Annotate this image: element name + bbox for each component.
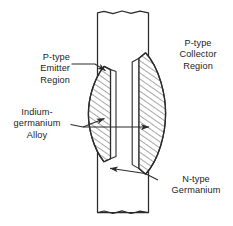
label-indium-germanium-alloy: Indium- germanium Alloy	[4, 107, 70, 141]
emitter-alloy-lens	[88, 66, 116, 161]
indium-leader-stem	[71, 125, 84, 128]
figure-canvas: P-type Emitter Region Indium- germanium …	[0, 0, 233, 226]
label-n-type-germanium: N-type Germanium	[160, 174, 232, 197]
collector-alloy-lens	[132, 53, 165, 174]
label-p-type-emitter-region: P-type Emitter Region	[8, 52, 70, 86]
label-p-type-collector-region: P-type Collector Region	[166, 38, 230, 72]
